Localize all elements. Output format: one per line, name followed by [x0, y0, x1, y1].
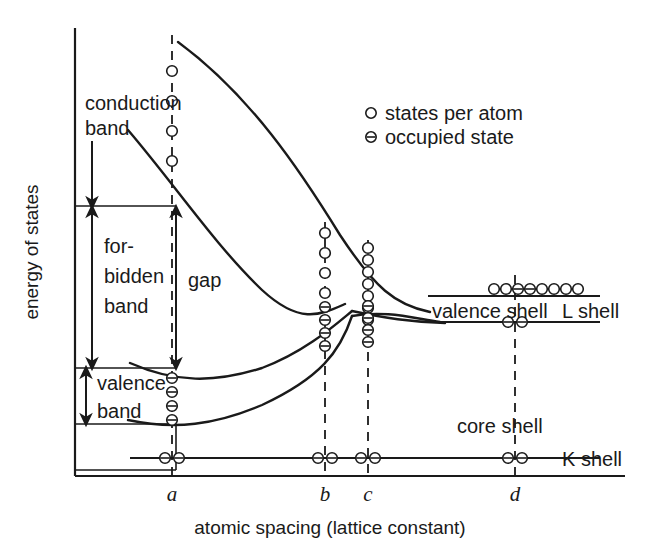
- valence-band-label-line2: band: [97, 400, 142, 422]
- column-b-state-2-1: [327, 453, 338, 464]
- y-axis-title: energy of states: [21, 184, 42, 319]
- column-a-state-0-2: [167, 126, 178, 137]
- column-c-state-1-1: [363, 313, 374, 324]
- legend-label-occupied-state: occupied state: [385, 126, 514, 148]
- column-d-state-2-0: [503, 453, 514, 464]
- column-b-state-1-1: [320, 315, 331, 326]
- column-d-state-0-1: [501, 284, 512, 295]
- column-b-state-0-3: [320, 288, 331, 299]
- l-shell-label: L shell: [562, 300, 619, 322]
- column-a-state-1-0: [167, 373, 178, 384]
- column-a-state-2-0: [160, 453, 171, 464]
- forbidden-band-label-line1: for-: [104, 235, 134, 257]
- column-a-state-0-3: [167, 156, 178, 167]
- column-d-state-0-2: [513, 284, 524, 295]
- occupied-circle-icon: [366, 132, 376, 142]
- column-d-state-0-6: [561, 284, 572, 295]
- column-d-state-0-3: [525, 284, 536, 295]
- legend-label-states-per-atom: states per atom: [385, 102, 523, 124]
- column-a-state-1-1: [167, 387, 178, 398]
- column-c-state-2-1: [370, 453, 381, 464]
- column-b-state-2-0: [313, 453, 324, 464]
- forbidden-band-label-line3: band: [104, 295, 149, 317]
- column-a-state-2-1: [174, 453, 185, 464]
- band-structure-figure: states per atom occupied state conductio…: [0, 0, 661, 544]
- valence-band-label-line1: valence: [97, 372, 166, 394]
- core-shell-label: core shell: [457, 415, 543, 437]
- x-tick-d: d: [510, 482, 521, 506]
- curve-valence-lower: [128, 316, 352, 425]
- column-c-state-2-0: [356, 453, 367, 464]
- x-tick-a: a: [167, 482, 178, 506]
- column-a-state-0-0: [167, 66, 178, 77]
- column-d-state-0-0: [489, 284, 500, 295]
- column-a-state-1-3: [167, 415, 178, 426]
- column-c-state-0-4: [363, 291, 374, 302]
- column-c-state-1-0: [363, 301, 374, 312]
- column-c-state-0-2: [363, 267, 374, 278]
- gap-label: gap: [188, 269, 221, 291]
- conduction-band-label-line1: conduction: [85, 92, 182, 114]
- conduction-band-label-line2: band: [85, 117, 130, 139]
- column-b-state-1-3: [320, 341, 331, 352]
- state-circles-layer: [160, 66, 584, 464]
- x-tick-c: c: [363, 482, 373, 506]
- open-circle-icon: [366, 108, 376, 118]
- column-d-state-2-1: [517, 453, 528, 464]
- k-shell-label: K shell: [562, 448, 622, 470]
- column-d-state-0-5: [549, 284, 560, 295]
- column-a-state-1-2: [167, 401, 178, 412]
- forbidden-band-label-line2: bidden: [104, 265, 164, 287]
- column-c-state-1-3: [363, 337, 374, 348]
- column-b-state-1-0: [320, 302, 331, 313]
- band-diagram-svg: states per atom occupied state conductio…: [0, 0, 661, 544]
- valence-shell-label: valence shell: [432, 300, 548, 322]
- x-axis-title: atomic spacing (lattice constant): [194, 517, 465, 538]
- column-d-state-0-7: [573, 284, 584, 295]
- column-c-state-0-3: [363, 279, 374, 290]
- legend-group: [366, 108, 376, 142]
- x-tick-b: b: [320, 482, 331, 506]
- column-d-state-0-4: [537, 284, 548, 295]
- column-b-state-0-0: [320, 228, 331, 239]
- column-b-state-0-1: [320, 248, 331, 259]
- column-b-state-0-2: [320, 268, 331, 279]
- column-c-state-0-0: [363, 243, 374, 254]
- column-c-state-0-1: [363, 255, 374, 266]
- column-c-state-1-2: [363, 325, 374, 336]
- column-b-state-1-2: [320, 328, 331, 339]
